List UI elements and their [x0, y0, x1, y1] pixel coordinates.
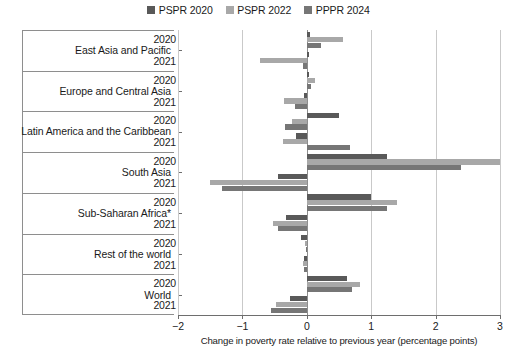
legend-entry-2[interactable]: PPPR 2024 — [304, 5, 369, 16]
bar — [210, 180, 307, 185]
year-label: 2020 — [153, 156, 176, 167]
year-label: 2021 — [153, 219, 176, 230]
bar-row — [178, 274, 500, 294]
year-group: 20202021 — [148, 274, 178, 315]
x-axis-title: Change in poverty rate relative to previ… — [178, 335, 500, 346]
bar-row — [178, 193, 500, 213]
x-tick-label-3: 3 — [485, 320, 515, 332]
year-label: 2021 — [153, 97, 176, 108]
legend-label-1: PSPR 2022 — [237, 5, 291, 16]
bar — [307, 43, 321, 48]
bar — [307, 154, 387, 159]
year-label: 2020 — [153, 115, 176, 126]
year-group: 20202021 — [148, 71, 178, 112]
x-tick-label-1: 1 — [356, 320, 386, 332]
bar-row — [178, 295, 500, 315]
bar — [307, 32, 310, 37]
bar — [304, 256, 307, 261]
bar — [307, 113, 339, 118]
bar-row — [178, 30, 500, 50]
year-group: 20202021 — [148, 111, 178, 152]
bar-row — [178, 234, 500, 254]
year-label: 2021 — [153, 260, 176, 271]
bar — [307, 84, 312, 89]
bar — [307, 276, 348, 281]
year-label: 2020 — [153, 34, 176, 45]
bar — [304, 267, 307, 272]
bar — [286, 215, 307, 220]
bar — [278, 174, 307, 179]
x-tick-label--2: −2 — [163, 320, 193, 332]
bar — [304, 93, 307, 98]
bar-row — [178, 132, 500, 152]
bar-row — [178, 173, 500, 193]
bar-row — [178, 111, 500, 131]
bar-row — [178, 254, 500, 274]
bar — [307, 206, 387, 211]
legend-swatch-icon-0 — [147, 6, 155, 14]
bar — [303, 63, 307, 68]
year-label: 2020 — [153, 197, 176, 208]
year-label: 2020 — [153, 278, 176, 289]
bar — [305, 241, 307, 246]
bar — [296, 133, 306, 138]
bar-row — [178, 91, 500, 111]
bar — [276, 302, 307, 307]
x-tick-label-2: 2 — [421, 320, 451, 332]
bar — [306, 247, 307, 252]
bar — [260, 58, 306, 63]
legend-swatch-icon-2 — [304, 6, 312, 14]
year-label: 2020 — [153, 238, 176, 249]
bar — [271, 308, 306, 313]
bar — [222, 186, 307, 191]
bar — [307, 78, 315, 83]
year-label: 2020 — [153, 75, 176, 86]
bar-row — [178, 50, 500, 70]
bar — [283, 139, 307, 144]
x-tick-label-0: 0 — [292, 320, 322, 332]
year-label: 2021 — [153, 178, 176, 189]
year-group: 20202021 — [148, 30, 178, 71]
bar — [278, 226, 307, 231]
legend-entry-1[interactable]: PSPR 2022 — [226, 5, 291, 16]
plot-canvas: −2−10123 — [178, 30, 500, 315]
x-tick-3 — [500, 315, 501, 319]
bar-row — [178, 152, 500, 172]
bar — [307, 200, 397, 205]
bar-row — [178, 213, 500, 233]
bar — [285, 124, 307, 129]
bar — [295, 104, 307, 109]
chart-legend: PSPR 2020PSPR 2022PPPR 2024 — [0, 5, 517, 16]
bar — [307, 52, 310, 57]
bar — [307, 72, 310, 77]
bar — [307, 159, 500, 164]
chart-figure: PSPR 2020PSPR 2022PPPR 2024 East Asia an… — [0, 0, 517, 360]
bar — [307, 282, 360, 287]
year-label: 2021 — [153, 56, 176, 67]
bar — [301, 235, 307, 240]
bar — [307, 165, 462, 170]
year-axis-labels: 2020202120202021202020212020202120202021… — [148, 30, 178, 315]
year-label: 2021 — [153, 137, 176, 148]
year-group: 20202021 — [148, 234, 178, 275]
legend-swatch-icon-1 — [226, 6, 234, 14]
gridline-3 — [500, 30, 501, 315]
legend-label-2: PPPR 2024 — [316, 5, 370, 16]
bar — [284, 98, 307, 103]
year-label: 2021 — [153, 300, 176, 311]
bar — [303, 261, 307, 266]
legend-entry-0[interactable]: PSPR 2020 — [147, 5, 212, 16]
bar — [307, 287, 352, 292]
bar — [292, 119, 307, 124]
year-group: 20202021 — [148, 193, 178, 234]
x-tick-label--1: −1 — [227, 320, 257, 332]
x-axis-line — [178, 315, 500, 316]
bar — [307, 194, 371, 199]
bar — [307, 37, 343, 42]
year-group: 20202021 — [148, 152, 178, 193]
legend-label-0: PSPR 2020 — [159, 5, 213, 16]
bar-row — [178, 71, 500, 91]
bar — [307, 145, 350, 150]
bar — [290, 296, 307, 301]
bar — [273, 221, 306, 226]
